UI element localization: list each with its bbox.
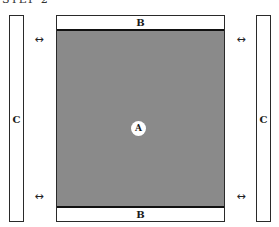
main-panel: B A B <box>56 15 225 222</box>
top-strip-b: B <box>57 16 224 31</box>
double-arrow-icon: ↔ <box>30 35 48 45</box>
main-region-a: A <box>57 31 224 206</box>
double-arrow-icon: ↔ <box>232 35 250 45</box>
right-side-panel-c: C <box>256 15 271 222</box>
left-side-panel-c: C <box>9 15 24 222</box>
double-arrow-icon: ↔ <box>232 192 250 202</box>
left-side-label: C <box>10 113 23 124</box>
region-a-marker: A <box>131 121 146 136</box>
top-strip-label: B <box>136 17 144 28</box>
bottom-strip-label: B <box>136 209 144 220</box>
step-title: STEP 2 <box>2 0 49 6</box>
bottom-strip-b: B <box>57 206 224 221</box>
right-side-label: C <box>257 113 270 124</box>
double-arrow-icon: ↔ <box>30 192 48 202</box>
